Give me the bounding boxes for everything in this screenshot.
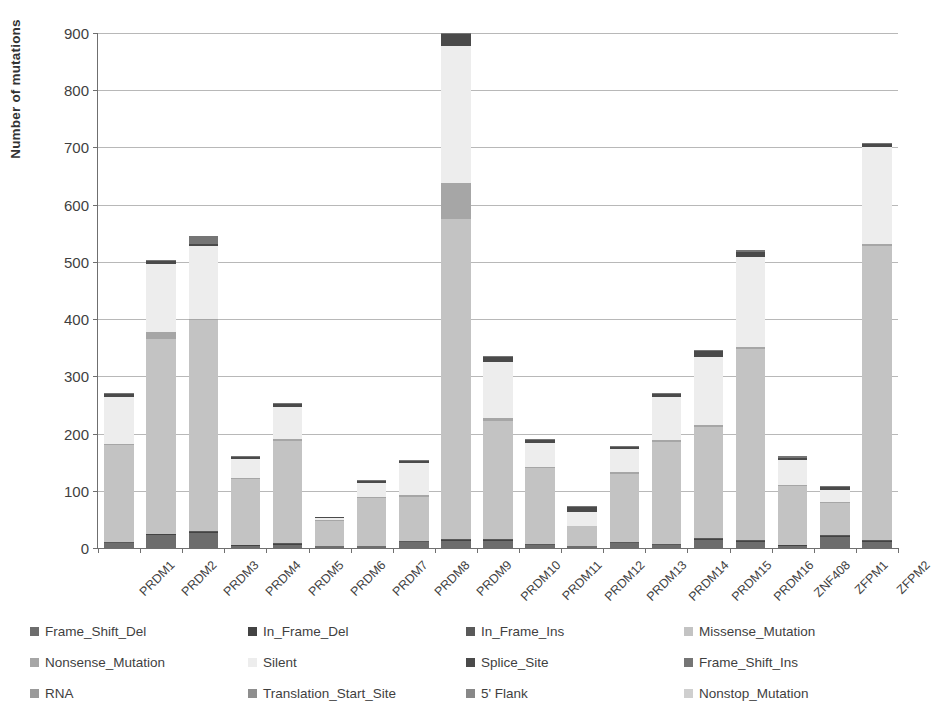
- bar-segment[interactable]: [399, 461, 428, 463]
- bar-segment[interactable]: [231, 456, 260, 457]
- bar-segment[interactable]: [441, 183, 470, 219]
- legend-item[interactable]: Translation_Start_Site: [248, 686, 466, 701]
- bar-group[interactable]: [567, 506, 596, 548]
- bar-segment[interactable]: [610, 446, 639, 447]
- bar-segment[interactable]: [146, 534, 175, 535]
- bar-group[interactable]: [146, 260, 175, 548]
- bar-segment[interactable]: [652, 545, 681, 548]
- bar-segment[interactable]: [189, 533, 218, 548]
- bar-segment[interactable]: [483, 421, 512, 539]
- bar-segment[interactable]: [104, 393, 133, 394]
- bar-segment[interactable]: [862, 147, 891, 244]
- bar-segment[interactable]: [525, 468, 554, 544]
- legend-item[interactable]: RNA: [30, 686, 248, 701]
- bar-segment[interactable]: [146, 535, 175, 548]
- bar-group[interactable]: [736, 251, 765, 548]
- bar-group[interactable]: [273, 404, 302, 548]
- bar-segment[interactable]: [567, 507, 596, 512]
- bar-group[interactable]: [610, 446, 639, 548]
- bar-segment[interactable]: [525, 545, 554, 548]
- bar-segment[interactable]: [189, 244, 218, 246]
- bar-segment[interactable]: [189, 236, 218, 244]
- bar-segment[interactable]: [104, 397, 133, 444]
- bar-segment[interactable]: [483, 540, 512, 541]
- bar-segment[interactable]: [567, 512, 596, 526]
- bar-segment[interactable]: [441, 219, 470, 539]
- bar-segment[interactable]: [441, 46, 470, 183]
- bar-group[interactable]: [862, 143, 891, 548]
- bar-group[interactable]: [104, 394, 133, 549]
- bar-segment[interactable]: [652, 394, 681, 397]
- bar-segment[interactable]: [778, 485, 807, 486]
- bar-segment[interactable]: [104, 394, 133, 397]
- bar-segment[interactable]: [778, 456, 807, 457]
- bar-segment[interactable]: [483, 541, 512, 548]
- bar-segment[interactable]: [862, 246, 891, 540]
- bar-segment[interactable]: [862, 144, 891, 147]
- bar-segment[interactable]: [357, 480, 386, 481]
- bar-group[interactable]: [525, 440, 554, 548]
- bar-segment[interactable]: [104, 445, 133, 542]
- bar-segment[interactable]: [567, 526, 596, 546]
- bar-segment[interactable]: [694, 357, 723, 425]
- bar-segment[interactable]: [189, 320, 218, 531]
- bar-segment[interactable]: [610, 447, 639, 449]
- bar-segment[interactable]: [820, 502, 849, 503]
- bar-segment[interactable]: [694, 350, 723, 351]
- bar-segment[interactable]: [694, 539, 723, 540]
- bar-segment[interactable]: [483, 362, 512, 418]
- bar-segment[interactable]: [146, 260, 175, 261]
- bar-segment[interactable]: [104, 543, 133, 548]
- bar-segment[interactable]: [610, 474, 639, 543]
- bar-segment[interactable]: [231, 478, 260, 479]
- bar-group[interactable]: [399, 460, 428, 548]
- bar-segment[interactable]: [441, 541, 470, 548]
- legend-item[interactable]: Frame_Shift_Ins: [684, 655, 900, 670]
- bar-segment[interactable]: [357, 483, 386, 497]
- bar-segment[interactable]: [736, 250, 765, 251]
- bar-segment[interactable]: [694, 427, 723, 539]
- bar-segment[interactable]: [273, 439, 302, 441]
- bar-segment[interactable]: [820, 490, 849, 502]
- bar-group[interactable]: [189, 236, 218, 548]
- bar-group[interactable]: [315, 518, 344, 548]
- bar-segment[interactable]: [862, 541, 891, 542]
- bar-segment[interactable]: [820, 486, 849, 487]
- bar-segment[interactable]: [862, 244, 891, 246]
- legend-item[interactable]: Splice_Site: [466, 655, 684, 670]
- bar-group[interactable]: [357, 480, 386, 548]
- bar-segment[interactable]: [315, 517, 344, 518]
- bar-segment[interactable]: [273, 407, 302, 439]
- bar-segment[interactable]: [357, 496, 386, 497]
- bar-segment[interactable]: [862, 542, 891, 548]
- bar-segment[interactable]: [399, 542, 428, 548]
- bar-segment[interactable]: [525, 439, 554, 440]
- bar-segment[interactable]: [610, 472, 639, 473]
- legend-item[interactable]: Nonsense_Mutation: [30, 655, 248, 670]
- bar-segment[interactable]: [736, 252, 765, 257]
- bar-segment[interactable]: [736, 542, 765, 548]
- bar-segment[interactable]: [862, 143, 891, 144]
- bar-segment[interactable]: [104, 444, 133, 445]
- bar-segment[interactable]: [525, 467, 554, 468]
- bar-segment[interactable]: [357, 498, 386, 546]
- legend-item[interactable]: Frame_Shift_Del: [30, 624, 248, 639]
- bar-segment[interactable]: [399, 495, 428, 496]
- bar-segment[interactable]: [694, 351, 723, 357]
- bar-segment[interactable]: [820, 537, 849, 548]
- bar-group[interactable]: [483, 356, 512, 548]
- bar-segment[interactable]: [652, 440, 681, 442]
- bar-segment[interactable]: [146, 264, 175, 332]
- bar-segment[interactable]: [820, 503, 849, 535]
- bar-segment[interactable]: [441, 34, 470, 45]
- bar-segment[interactable]: [483, 418, 512, 421]
- bar-segment[interactable]: [483, 356, 512, 357]
- bar-segment[interactable]: [357, 481, 386, 483]
- legend-item[interactable]: In_Frame_Ins: [466, 624, 684, 639]
- bar-segment[interactable]: [610, 543, 639, 548]
- bar-segment[interactable]: [736, 349, 765, 540]
- bar-segment[interactable]: [399, 497, 428, 542]
- bar-segment[interactable]: [736, 257, 765, 347]
- bar-segment[interactable]: [778, 486, 807, 545]
- legend-item[interactable]: 5' Flank: [466, 686, 684, 701]
